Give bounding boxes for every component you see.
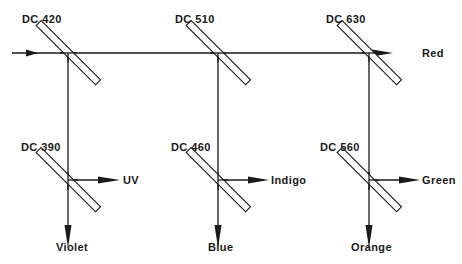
mirror-label-dc420: DC 420	[22, 13, 62, 25]
beam-path-diagram	[0, 0, 462, 264]
arrow-right-icon	[399, 177, 420, 184]
mirror-label-dc510: DC 510	[175, 13, 215, 25]
output-label-violet: Violet	[56, 241, 88, 253]
output-label-uv: UV	[123, 174, 139, 186]
mirror-label-dc460: DC 460	[171, 141, 211, 153]
mirror-label-dc560: DC 560	[320, 141, 360, 153]
mirror-label-dc630: DC 630	[326, 13, 366, 25]
output-label-red: Red	[422, 47, 444, 59]
output-label-green: Green	[422, 174, 456, 186]
output-label-indigo: Indigo	[271, 174, 306, 186]
mirror-label-dc390: DC 390	[21, 141, 61, 153]
input-arrow-icon	[26, 50, 38, 57]
arrow-right-icon	[98, 177, 120, 184]
output-label-orange: Orange	[351, 241, 392, 253]
arrow-right-icon	[248, 177, 269, 184]
output-label-blue: Blue	[208, 241, 233, 253]
